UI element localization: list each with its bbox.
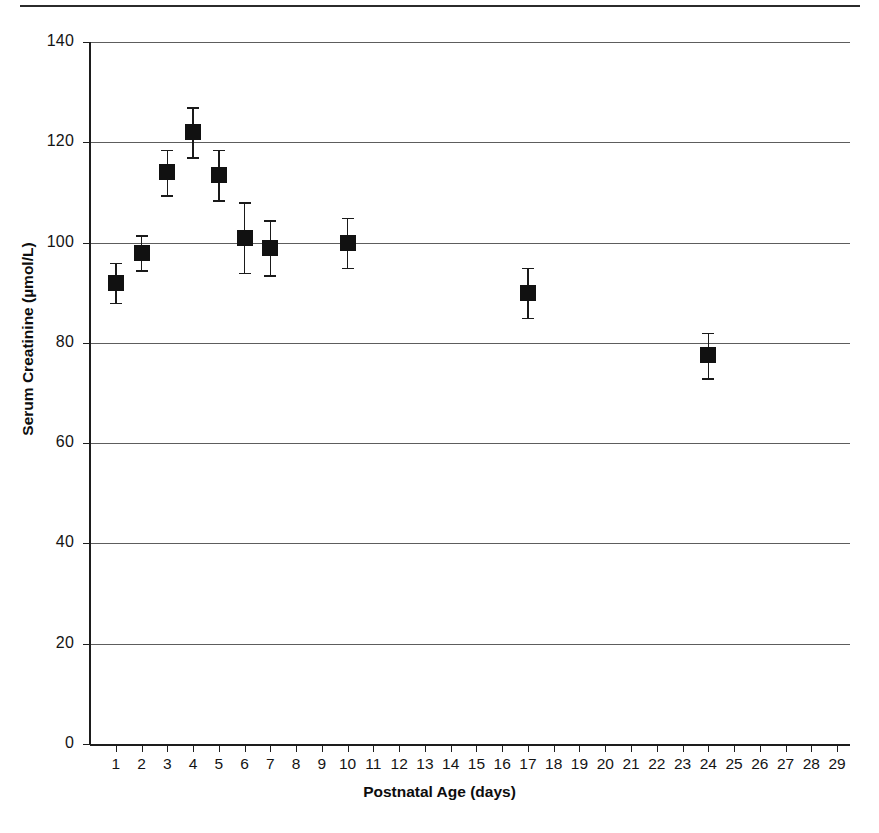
y-tick-label-0: 0 <box>28 734 74 752</box>
x-tick-13 <box>425 744 426 752</box>
x-tick-27 <box>786 744 787 752</box>
error-bar-cap-upper <box>702 333 714 335</box>
x-tick-label-14: 14 <box>437 755 465 773</box>
x-tick-label-5: 5 <box>205 755 233 773</box>
error-bar-cap-upper <box>161 150 173 152</box>
x-tick-11 <box>373 744 374 752</box>
error-bar-cap-upper <box>264 220 276 222</box>
x-axis-title: Postnatal Age (days) <box>0 783 879 801</box>
x-tick-label-8: 8 <box>282 755 310 773</box>
x-tick-label-16: 16 <box>488 755 516 773</box>
x-tick-17 <box>528 744 529 752</box>
error-bar-cap-upper <box>342 218 354 220</box>
gridline-40 <box>90 543 850 544</box>
error-bar-cap-lower <box>264 275 276 277</box>
error-bar-cap-upper <box>522 268 534 270</box>
error-bar-cap-upper <box>187 107 199 109</box>
x-tick-21 <box>631 744 632 752</box>
x-tick-label-25: 25 <box>720 755 748 773</box>
x-tick-14 <box>451 744 452 752</box>
x-tick-15 <box>476 744 477 752</box>
gridline-80 <box>90 343 850 344</box>
error-bar-cap-lower <box>213 200 225 202</box>
x-tick-label-28: 28 <box>797 755 825 773</box>
y-tick-60 <box>83 443 90 444</box>
x-tick-label-27: 27 <box>772 755 800 773</box>
error-bar-cap-lower <box>239 273 251 275</box>
x-tick-label-18: 18 <box>540 755 568 773</box>
x-tick-8 <box>296 744 297 752</box>
x-tick-label-21: 21 <box>617 755 645 773</box>
x-tick-20 <box>605 744 606 752</box>
y-tick-40 <box>83 543 90 544</box>
x-tick-16 <box>502 744 503 752</box>
x-tick-label-6: 6 <box>231 755 259 773</box>
x-tick-label-26: 26 <box>746 755 774 773</box>
error-bar-cap-lower <box>187 157 199 159</box>
y-tick-label-40: 40 <box>28 533 74 551</box>
x-tick-label-15: 15 <box>462 755 490 773</box>
marker-square <box>700 347 716 363</box>
y-tick-100 <box>83 243 90 244</box>
y-tick-120 <box>83 142 90 143</box>
error-bar-cap-lower <box>136 270 148 272</box>
marker-square <box>211 167 227 183</box>
error-bar-cap-lower <box>342 268 354 270</box>
error-bar-cap-lower <box>522 318 534 320</box>
y-tick-0 <box>83 744 90 745</box>
x-tick-2 <box>142 744 143 752</box>
gridline-100 <box>90 243 850 244</box>
y-axis-title: Serum Creatinine (µmol/L) <box>19 189 37 489</box>
gridline-120 <box>90 142 850 143</box>
x-tick-label-4: 4 <box>179 755 207 773</box>
error-bar-cap-upper <box>213 150 225 152</box>
x-tick-23 <box>683 744 684 752</box>
x-tick-1 <box>116 744 117 752</box>
x-tick-label-20: 20 <box>591 755 619 773</box>
serum-creatinine-scatter-chart: 020406080100120140 123456789101112131415… <box>0 0 879 833</box>
y-axis-line <box>89 42 91 745</box>
x-tick-25 <box>734 744 735 752</box>
x-axis-line <box>90 744 850 746</box>
error-bar-cap-lower <box>110 303 122 305</box>
chart-page: 020406080100120140 123456789101112131415… <box>0 0 879 833</box>
x-tick-label-22: 22 <box>643 755 671 773</box>
x-tick-label-13: 13 <box>411 755 439 773</box>
gridline-20 <box>90 644 850 645</box>
x-tick-4 <box>193 744 194 752</box>
marker-square <box>134 245 150 261</box>
x-tick-label-24: 24 <box>694 755 722 773</box>
gridline-140 <box>90 42 850 43</box>
x-tick-label-29: 29 <box>823 755 851 773</box>
y-tick-label-20: 20 <box>28 634 74 652</box>
marker-square <box>520 285 536 301</box>
y-tick-140 <box>83 42 90 43</box>
marker-square <box>108 275 124 291</box>
y-tick-80 <box>83 343 90 344</box>
x-tick-label-23: 23 <box>669 755 697 773</box>
x-tick-7 <box>270 744 271 752</box>
x-tick-29 <box>837 744 838 752</box>
error-bar-cap-upper <box>110 263 122 265</box>
x-tick-12 <box>399 744 400 752</box>
x-tick-label-17: 17 <box>514 755 542 773</box>
x-tick-label-9: 9 <box>308 755 336 773</box>
x-tick-label-10: 10 <box>334 755 362 773</box>
marker-square <box>185 124 201 140</box>
x-tick-19 <box>579 744 580 752</box>
marker-square <box>340 235 356 251</box>
x-tick-24 <box>708 744 709 752</box>
x-tick-label-2: 2 <box>128 755 156 773</box>
marker-square <box>262 240 278 256</box>
x-tick-label-19: 19 <box>565 755 593 773</box>
x-tick-label-7: 7 <box>256 755 284 773</box>
x-tick-9 <box>322 744 323 752</box>
y-tick-20 <box>83 644 90 645</box>
y-tick-label-120: 120 <box>28 132 74 150</box>
x-tick-5 <box>219 744 220 752</box>
x-tick-22 <box>657 744 658 752</box>
x-tick-label-1: 1 <box>102 755 130 773</box>
x-tick-6 <box>245 744 246 752</box>
error-bar-cap-lower <box>702 378 714 380</box>
plot-area <box>90 42 850 744</box>
